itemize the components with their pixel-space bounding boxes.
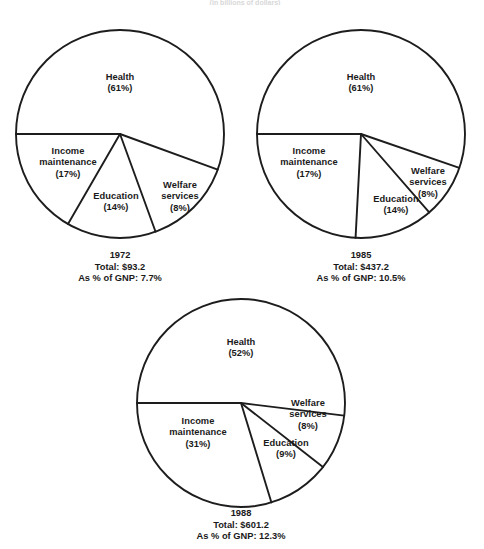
- pie-1985-caption-year: 1985: [351, 250, 372, 260]
- pie-1988-caption-total: Total: $601.2: [213, 520, 269, 530]
- pie-1972-caption-gnp: As % of GNP: 7.7%: [78, 273, 162, 283]
- pie-1985-svg: [255, 28, 467, 240]
- pie-1985-caption-gnp: As % of GNP: 10.5%: [317, 273, 406, 283]
- figure-title-fragment: (in billions of dollars): [140, 0, 350, 5]
- pie-1988-caption: 1988 Total: $601.2 As % of GNP: 12.3%: [161, 508, 321, 543]
- pie-1972-caption: 1972 Total: $93.2 As % of GNP: 7.7%: [40, 250, 200, 285]
- pie-1988-caption-gnp: As % of GNP: 12.3%: [197, 531, 286, 541]
- pie-1988-caption-year: 1988: [231, 508, 252, 518]
- pie-1985-caption: 1985 Total: $437.2 As % of GNP: 10.5%: [281, 250, 441, 285]
- figure-root: (in billions of dollars) Health (61%) In…: [0, 0, 484, 549]
- pie-1985-caption-total: Total: $437.2: [333, 262, 389, 272]
- pie-1972-caption-total: Total: $93.2: [95, 262, 145, 272]
- pie-chart-1985: Health (61%) Income maintenance (17%) Ed…: [255, 28, 467, 240]
- pie-chart-1972: Health (61%) Income maintenance (17%) Ed…: [14, 28, 226, 240]
- pie-1972-caption-year: 1972: [110, 250, 131, 260]
- pie-1988-svg: [135, 297, 347, 509]
- pie-1972-svg: [14, 28, 226, 240]
- pie-chart-1988: Health (52%) Income maintenance (31%) Ed…: [135, 297, 347, 509]
